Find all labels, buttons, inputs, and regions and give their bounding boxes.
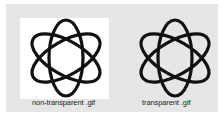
comparison-panel: non-transparent .gif transparent .gif <box>6 4 218 112</box>
non-transparent-label: non-transparent .gif <box>32 98 95 107</box>
transparent-label: transparent .gif <box>142 98 190 107</box>
atom-icon <box>128 14 222 102</box>
atom-icon <box>19 14 113 102</box>
